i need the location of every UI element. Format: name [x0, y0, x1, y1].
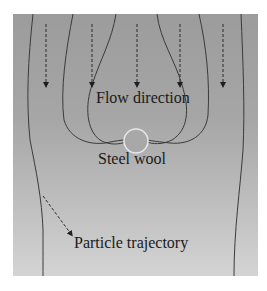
particle-trajectory-arrow [43, 196, 71, 234]
streamline-inner-right [147, 14, 187, 144]
streamline-mid-right [148, 14, 209, 143]
streamline-outer-left [28, 14, 43, 276]
flow-arrows [46, 24, 223, 85]
flow-direction-label: Flow direction [96, 90, 190, 106]
particle-trajectory-label: Particle trajectory [74, 235, 188, 251]
streamline-outer-right [234, 14, 244, 276]
streamline-inner-left [88, 14, 126, 144]
steel-wool-label: Steel wool [98, 151, 166, 167]
